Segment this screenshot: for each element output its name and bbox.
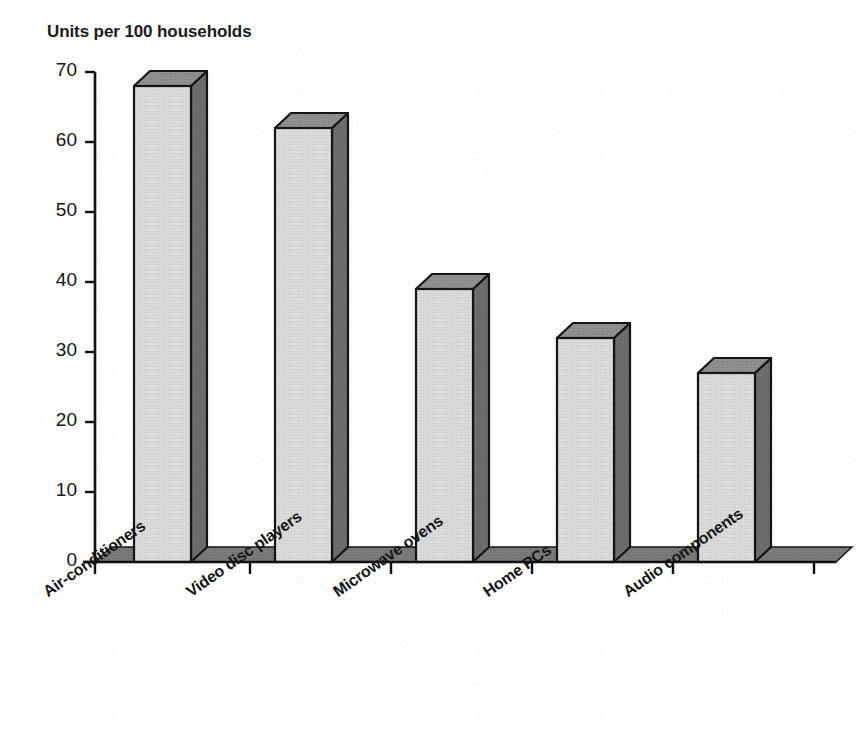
bar-side-face [755, 358, 771, 562]
bar-front-face [134, 86, 191, 562]
y-tick-label: 50 [35, 199, 77, 221]
y-tick-label: 10 [35, 479, 77, 501]
y-tick-label: 30 [35, 339, 77, 361]
y-tick-label: 20 [35, 409, 77, 431]
bar-chart: Units per 100 households 01020304050 [0, 0, 866, 731]
bar-side-face [332, 113, 348, 562]
bar-side-face [191, 71, 207, 562]
bar-side-face [614, 323, 630, 562]
chart-plot-area [0, 0, 866, 731]
bar-side-face [473, 274, 489, 562]
chart-bars [134, 71, 771, 562]
bar-front-face [275, 128, 332, 562]
bar-0 [134, 71, 207, 562]
bar-3 [557, 323, 630, 562]
y-tick-label: 60 [35, 129, 77, 151]
y-tick-label: 40 [35, 269, 77, 291]
bar-front-face [557, 338, 614, 562]
y-tick-label: 70 [35, 59, 77, 81]
bar-1 [275, 113, 348, 562]
